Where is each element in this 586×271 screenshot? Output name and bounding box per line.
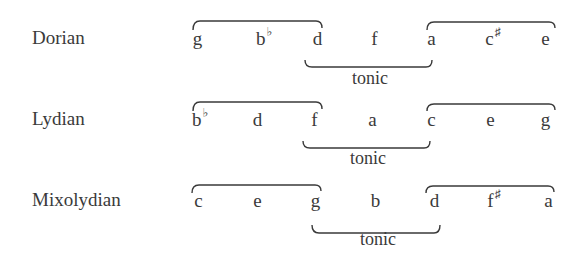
tonic-bracket (312, 225, 440, 233)
tonic-bracket (305, 60, 432, 67)
top-bracket (426, 186, 554, 193)
brackets (0, 0, 586, 271)
tonic-bracket (303, 141, 430, 148)
top-bracket (427, 104, 555, 111)
top-bracket (427, 22, 555, 30)
top-bracket (193, 21, 322, 30)
top-bracket (193, 102, 322, 111)
top-bracket (192, 185, 321, 193)
